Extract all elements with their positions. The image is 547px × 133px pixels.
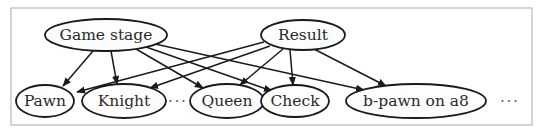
node-result-label: Result (278, 26, 329, 44)
node-game-stage: Game stage (45, 19, 167, 51)
node-queen-label: Queen (201, 92, 252, 110)
node-queen: Queen (190, 84, 264, 118)
node-game-stage-label: Game stage (60, 26, 153, 44)
ellipsis-between-knight-queen: ··· (168, 93, 187, 109)
node-pawn: Pawn (16, 85, 74, 117)
node-knight-label: Knight (98, 92, 151, 110)
node-pawn-label: Pawn (24, 92, 66, 110)
ellipsis-trailing: ··· (500, 93, 519, 109)
node-check-label: Check (270, 92, 320, 110)
node-check: Check (261, 85, 329, 117)
bayesian-network-diagram: Game stage Result Pawn Knight ··· Queen … (0, 0, 547, 133)
node-result: Result (261, 20, 345, 50)
node-b-pawn-on-a8-label: b-pawn on a8 (363, 92, 469, 110)
node-b-pawn-on-a8: b-pawn on a8 (346, 84, 486, 118)
node-knight: Knight (82, 84, 166, 118)
